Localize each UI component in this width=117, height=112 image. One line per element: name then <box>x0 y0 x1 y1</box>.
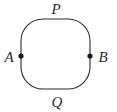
arc-label-q: Q <box>52 95 63 110</box>
point-label-a: A <box>4 50 13 65</box>
arc-label-p: P <box>51 2 60 17</box>
point-label-b: B <box>98 50 107 65</box>
point-a-marker <box>18 53 23 58</box>
geometry-figure: P A B Q <box>0 0 117 112</box>
point-b-marker <box>87 53 92 58</box>
